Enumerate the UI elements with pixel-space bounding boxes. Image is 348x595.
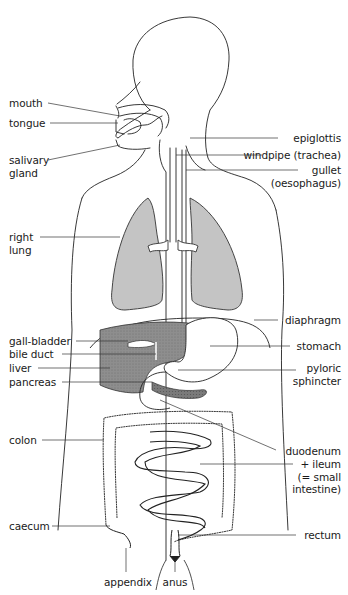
label-caecum: caecum: [9, 520, 50, 533]
label-mouth: mouth: [9, 97, 43, 110]
label-epiglottis: epiglottis: [293, 132, 341, 145]
label-pyloric-line2: sphincter: [293, 375, 341, 388]
label-colon: colon: [9, 434, 37, 447]
label-pancreas: pancreas: [9, 376, 56, 389]
label-appendix: appendix: [104, 576, 150, 589]
label-gullet: gullet (oesophagus): [271, 164, 341, 189]
label-ileum-line3: intestine): [292, 483, 341, 496]
label-ileum-line1: + ileum: [292, 458, 341, 471]
label-bile-duct: bile duct: [9, 348, 54, 361]
label-pyloric-sphincter: pyloric sphincter: [293, 362, 341, 387]
label-diaphragm: diaphragm: [285, 314, 341, 327]
label-salivary-gland-line1: salivary: [9, 154, 49, 167]
head-outline: [133, 17, 276, 210]
torso-left-side: [58, 198, 82, 530]
label-tongue: tongue: [9, 117, 45, 130]
label-gall-bladder: gall-bladder: [9, 335, 71, 348]
digestive-system-illustration: [0, 0, 348, 595]
label-gullet-line2: (oesophagus): [271, 177, 341, 190]
label-salivary-gland: salivary gland: [9, 154, 49, 179]
label-pyloric-line1: pyloric: [293, 362, 341, 375]
label-right-lung-line1: right: [9, 231, 33, 244]
left-lung-shape: [190, 198, 242, 310]
label-anus: anus: [158, 576, 192, 589]
label-right-lung-line2: lung: [9, 244, 33, 257]
label-gullet-line1: gullet: [271, 164, 341, 177]
label-stomach: stomach: [297, 340, 341, 353]
right-lung-shape: [112, 198, 163, 310]
label-ileum: + ileum (= small intestine): [292, 458, 341, 496]
label-duodenum: duodenum: [285, 445, 341, 458]
label-salivary-gland-line2: gland: [9, 167, 49, 180]
label-liver: liver: [9, 362, 31, 375]
label-ileum-line2: (= small: [292, 471, 341, 484]
label-rectum: rectum: [304, 529, 341, 542]
label-windpipe: windpipe (trachea): [244, 149, 341, 162]
label-right-lung: right lung: [9, 231, 33, 256]
pancreas-shape: [152, 382, 207, 399]
